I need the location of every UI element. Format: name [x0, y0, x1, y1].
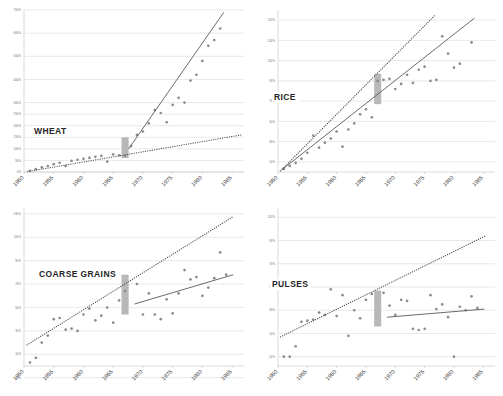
x-axis-tick-label: 1970 — [131, 368, 144, 381]
y-axis-tick-label: 100% — [14, 147, 22, 151]
year-marker-band — [374, 290, 381, 326]
panel-wheat-plot: 0%50%100%150%200%250%300%400%500%600%700… — [0, 0, 252, 200]
y-axis-tick-label: 0% — [17, 170, 22, 174]
four-panel-scatter-figure: 0%50%100%150%200%250%300%400%500%600%700… — [0, 0, 503, 396]
y-axis-tick-label: 200% — [14, 124, 22, 128]
year-marker-band — [122, 275, 129, 315]
y-axis-tick-label: 110% — [268, 215, 276, 219]
x-axis-tick-label: 1955 — [295, 368, 308, 381]
y-axis-tick-label: 30% — [269, 140, 275, 144]
panel-wheat: 0%50%100%150%200%250%300%400%500%600%700… — [0, 0, 252, 200]
y-axis-tick-label: 50% — [15, 159, 21, 163]
x-axis-tick-label: 1955 — [41, 174, 54, 187]
x-axis-tick-label: 1965 — [101, 368, 114, 381]
y-axis-tick-label: 150% — [268, 18, 276, 22]
trend-line-dotted — [280, 15, 435, 171]
y-axis-tick-label: 70% — [269, 262, 275, 266]
x-axis-tick-label: 1970 — [383, 174, 396, 187]
panel-pulses-plot: -10%10%30%50%70%90%110%19501955196019651… — [252, 200, 503, 396]
x-axis-tick-label: 1975 — [160, 368, 173, 381]
panel-title-wheat: WHEAT — [32, 126, 70, 137]
trend-line-solid — [129, 12, 224, 149]
x-axis-tick-label: 1975 — [412, 174, 425, 187]
y-axis-tick-label: 50% — [15, 306, 21, 310]
panel-pulses: -10%10%30%50%70%90%110%19501955196019651… — [252, 200, 503, 396]
panel-title-coarse-grains: COARSE GRAINS — [37, 269, 119, 280]
y-axis-tick-label: 700% — [14, 8, 22, 12]
x-axis-tick-label: 1965 — [101, 174, 114, 187]
x-axis-tick-label: 1970 — [131, 174, 144, 187]
trend-line-solid — [282, 18, 475, 170]
trend-line-dotted — [27, 216, 234, 345]
x-axis-tick-label: 1950 — [266, 368, 279, 381]
x-axis-tick-label: 1960 — [71, 174, 84, 187]
trend-line-solid — [135, 275, 234, 304]
y-axis-tick-label: 130% — [14, 212, 22, 216]
panel-coarse-grains: -10%10%30%50%70%90%110%130%1950195519601… — [0, 200, 252, 396]
y-axis-tick-label: 90% — [15, 259, 21, 263]
x-axis-tick-label: 1960 — [71, 368, 84, 381]
y-axis-tick-label: 130% — [268, 39, 276, 43]
y-axis-tick-label: 90% — [269, 79, 275, 83]
panel-title-rice: RICE — [272, 92, 299, 103]
y-axis-tick-label: 90% — [269, 239, 275, 243]
x-axis-tick-label: 1970 — [383, 368, 396, 381]
x-axis-tick-label: 1985 — [471, 368, 484, 381]
y-axis-tick-label: 110% — [268, 59, 276, 63]
x-axis-tick-label: 1965 — [354, 368, 367, 381]
y-axis-tick-label: 110% — [14, 235, 22, 239]
x-axis-tick-label: 1955 — [41, 368, 54, 381]
x-axis-tick-label: 1960 — [324, 174, 337, 187]
panel-rice: 10%30%50%70%90%110%130%150%1950195519601… — [252, 0, 503, 200]
y-axis-tick-label: 10% — [15, 352, 21, 356]
x-axis-tick-label: 1980 — [442, 174, 455, 187]
x-axis-tick-label: 1950 — [12, 174, 25, 187]
panel-title-pulses: PULSES — [270, 279, 311, 290]
year-marker-band — [374, 74, 381, 104]
x-axis-tick-label: 1985 — [471, 174, 484, 187]
y-axis-tick-label: 10% — [269, 332, 275, 336]
y-axis-tick-label: 30% — [269, 308, 275, 312]
y-axis-tick-label: 30% — [15, 329, 21, 333]
panel-coarse-grains-plot: -10%10%30%50%70%90%110%130%1950195519601… — [0, 200, 252, 396]
y-axis-tick-label: 150% — [14, 135, 22, 139]
y-axis-tick-label: 400% — [14, 78, 22, 82]
x-axis-tick-label: 1955 — [295, 174, 308, 187]
y-axis-tick-label: 600% — [14, 31, 22, 35]
x-axis-tick-label: 1980 — [190, 368, 203, 381]
x-axis-tick-label: 1980 — [442, 368, 455, 381]
y-axis-tick-label: 50% — [269, 120, 275, 124]
y-axis-tick-label: 500% — [14, 54, 22, 58]
y-axis-tick-label: 10% — [269, 160, 275, 164]
x-axis-tick-label: 1975 — [412, 368, 425, 381]
x-axis-tick-label: 1950 — [266, 174, 279, 187]
x-axis-tick-label: 1965 — [354, 174, 367, 187]
y-axis-tick-label: -10% — [268, 355, 275, 359]
x-axis-tick-label: 1985 — [220, 368, 233, 381]
x-axis-tick-label: 1975 — [160, 174, 173, 187]
y-axis-tick-label: 300% — [14, 101, 22, 105]
y-axis-tick-label: 250% — [14, 112, 22, 116]
y-axis-tick-label: 70% — [15, 282, 21, 286]
x-axis-tick-label: 1960 — [324, 368, 337, 381]
x-axis-tick-label: 1985 — [220, 174, 233, 187]
x-axis-tick-label: 1980 — [190, 174, 203, 187]
